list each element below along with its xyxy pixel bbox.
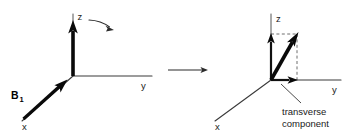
left-b1-vector xyxy=(24,86,61,119)
vector-diagram-svg: z y x B 1 xyxy=(0,0,352,136)
figure-root: z y x B 1 xyxy=(0,0,352,136)
right-y-axis-label: y xyxy=(332,84,337,95)
right-x-axis-line xyxy=(215,80,271,121)
right-z-axis-label: z xyxy=(276,13,281,24)
left-b1-label: B xyxy=(11,89,19,101)
right-annotation-leader-line xyxy=(281,84,301,103)
right-panel-group: z y x transverse component xyxy=(215,13,341,132)
left-y-axis-label: y xyxy=(141,80,146,91)
right-magnetization-vector xyxy=(271,42,293,80)
left-x-axis-label: x xyxy=(22,121,27,132)
transverse-component-label-line1: transverse xyxy=(282,106,326,117)
left-b1-label-subscript: 1 xyxy=(20,95,24,104)
left-panel-group: z y x B 1 xyxy=(11,11,152,132)
right-x-axis-label: x xyxy=(215,121,220,132)
left-rotation-arrow-line xyxy=(89,20,110,27)
transition-arrow-group xyxy=(168,67,208,73)
transverse-component-label-line2: component xyxy=(282,118,329,129)
left-z-axis-label: z xyxy=(78,11,83,22)
